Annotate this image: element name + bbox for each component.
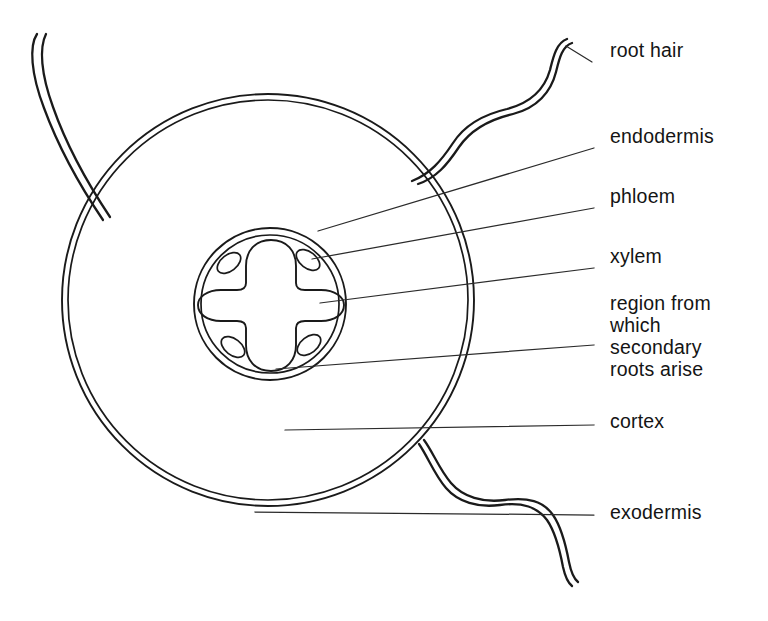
phloem-patch-upper-left xyxy=(213,248,244,277)
phloem-patch-lower-left xyxy=(217,332,248,361)
endodermis-ring xyxy=(194,228,346,380)
phloem-patch-lower-right xyxy=(293,330,324,359)
phloem-patches xyxy=(213,245,324,361)
label-cortex: cortex xyxy=(610,410,664,432)
cortex-outer-wall xyxy=(62,94,474,506)
root-hair-upper-left xyxy=(32,34,110,220)
leader-phloem xyxy=(312,208,594,259)
root-hair-lower-right xyxy=(419,440,578,586)
label-endodermis: endodermis xyxy=(610,125,714,147)
root-anatomy-figure: root hair endodermis phloem xylem region… xyxy=(0,0,768,621)
label-root-hair: root hair xyxy=(610,39,684,61)
leader-xylem xyxy=(320,268,594,303)
label-secondary-roots-line-1: region from xyxy=(610,292,711,314)
label-secondary-roots-line-4: roots arise xyxy=(610,358,703,380)
leader-exodermis xyxy=(255,512,594,515)
leader-endodermis xyxy=(318,148,594,231)
label-secondary-roots: region from which secondary roots arise xyxy=(609,292,711,380)
label-secondary-roots-line-3: secondary xyxy=(610,336,702,358)
label-phloem: phloem xyxy=(610,185,675,207)
leader-cortex xyxy=(285,425,594,430)
label-xylem: xylem xyxy=(610,245,662,267)
leader-root-hair xyxy=(566,46,592,62)
label-secondary-roots-line-2: which xyxy=(609,314,661,336)
phloem-patch-upper-right xyxy=(292,245,323,274)
root-cross-section-diagram: root hair endodermis phloem xylem region… xyxy=(0,0,768,621)
label-exodermis: exodermis xyxy=(610,501,702,523)
